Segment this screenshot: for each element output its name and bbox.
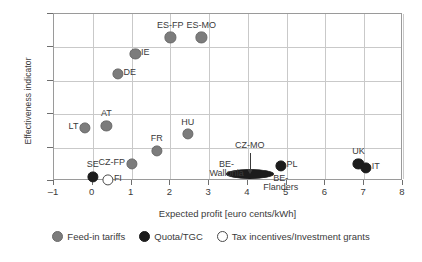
legend-item-quota[interactable]: Quota/TGC (139, 231, 203, 242)
x-tick-label: 8 (382, 186, 422, 197)
x-tick-mark (208, 180, 209, 185)
gridline-vertical (325, 14, 326, 179)
gridline-horizontal (54, 47, 401, 48)
x-tick-mark (53, 180, 54, 185)
gridline-horizontal (54, 81, 401, 82)
data-point-ie (130, 48, 141, 59)
data-point-es-mo (196, 32, 207, 43)
data-point-es-fp (165, 32, 176, 43)
point-label-fr: FR (151, 134, 163, 143)
data-point-cz-fp (126, 159, 137, 170)
point-label-es-fp: ES-FP (157, 21, 184, 30)
point-label-fi: FI (114, 174, 122, 183)
x-tick-label: 3 (188, 186, 228, 197)
x-tick-mark (131, 180, 132, 185)
gridline-horizontal (54, 148, 401, 149)
data-point-lt (79, 122, 90, 133)
gridline-vertical (287, 14, 288, 179)
x-axis-title: Expected profit [euro cents/kWh] (53, 208, 402, 219)
legend-swatch-quota-icon (139, 231, 150, 242)
x-tick-label: 1 (111, 186, 151, 197)
legend-label: Feed-in tariffs (67, 231, 125, 242)
point-label-es-mo: ES-MO (187, 21, 217, 30)
x-tick-label: 2 (149, 186, 189, 197)
cz-mo-callout-arrow (250, 153, 251, 170)
data-point-de (112, 69, 123, 80)
x-tick-label: –1 (33, 186, 73, 197)
x-tick-mark (324, 180, 325, 185)
point-label-se: SE (87, 160, 99, 169)
legend-label: Quota/TGC (154, 231, 203, 242)
data-point-pl (275, 161, 286, 172)
point-label-hu: HU (181, 118, 194, 127)
data-point-at (101, 120, 112, 131)
legend: Feed-in tariffsQuota/TGCTax incentives/I… (0, 231, 422, 242)
point-label-pl: PL (286, 160, 297, 169)
gridline-vertical (403, 14, 404, 179)
point-label-lt: LT (69, 122, 79, 131)
data-point-fr (151, 145, 162, 156)
x-tick-label: 7 (343, 186, 383, 197)
plot-area: LTATDEIECZ-FPFRES-FPHUES-MOSECZ-MOPLUKIT… (53, 13, 402, 180)
legend-label: Tax incentives/Investment grants (232, 231, 370, 242)
x-tick-label: 4 (227, 186, 267, 197)
data-point-fi (103, 174, 114, 185)
scatter-chart: Effectiveness indicator Expected profit … (0, 0, 422, 262)
x-tick-mark (169, 180, 170, 185)
annotation-be-wallonia: BE-Wallonia (209, 160, 243, 179)
x-tick-label: 6 (304, 186, 344, 197)
point-label-uk: UK (352, 147, 365, 156)
point-label-at: AT (101, 109, 112, 118)
data-point-it (361, 162, 372, 173)
x-tick-mark (402, 180, 403, 185)
gridline-vertical (209, 14, 210, 179)
point-label-it: IT (372, 162, 380, 171)
annotation-be-flanders: BE-Flanders (263, 174, 298, 193)
legend-item-tax[interactable]: Tax incentives/Investment grants (217, 231, 370, 242)
data-point-hu (182, 129, 193, 140)
x-tick-mark (363, 180, 364, 185)
x-tick-mark (247, 180, 248, 185)
point-label-ie: IE (141, 48, 150, 57)
y-axis-title: Effectiveness indicator (23, 21, 33, 181)
x-tick-label: 0 (72, 186, 112, 197)
gridline-vertical (132, 14, 133, 179)
point-label-cz-mo: CZ-MO (235, 141, 265, 150)
legend-swatch-tax-icon (217, 231, 228, 242)
gridline-vertical (93, 14, 94, 179)
data-point-se (87, 171, 98, 182)
gridline-vertical (248, 14, 249, 179)
point-label-cz-fp: CZ-FP (98, 158, 125, 167)
legend-item-fit[interactable]: Feed-in tariffs (52, 231, 125, 242)
point-label-de: DE (124, 68, 137, 77)
legend-swatch-fit-icon (52, 231, 63, 242)
